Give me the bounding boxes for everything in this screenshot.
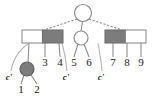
marker-label-c-left: c'	[6, 73, 13, 82]
node-right-block-cell-light[interactable]	[126, 30, 147, 43]
node-left-block-cell-dark[interactable]	[43, 30, 64, 43]
leaf-label-9: 9	[138, 57, 144, 68]
edge-root-to-middle-circle	[81, 22, 83, 32]
node-left-block-cell-light[interactable]	[22, 30, 43, 43]
leaf-label-3: 3	[42, 57, 48, 68]
node-right-block[interactable]	[105, 30, 146, 43]
tree-graphics	[0, 0, 159, 105]
node-left-block[interactable]	[22, 30, 63, 43]
leaf-label-2: 2	[34, 84, 40, 95]
marker-label-c-right: c'	[98, 73, 105, 82]
node-right-block-cell-dark[interactable]	[105, 30, 126, 43]
node-dark-leaf-circle[interactable]	[20, 62, 34, 76]
leaf-label-7: 7	[110, 57, 116, 68]
edge-left-block-to-leaf-4	[59, 43, 60, 57]
node-root-circle[interactable]	[75, 5, 92, 22]
leaf-label-6: 6	[86, 57, 92, 68]
leaf-label-5: 5	[71, 57, 77, 68]
marker-label-c-middle: c'	[63, 73, 70, 82]
right-block-edges	[113, 43, 141, 57]
tree-diagram: 1 2 3 4 5 6 7 8 9 c' c' c'	[0, 0, 159, 105]
node-middle-circle[interactable]	[74, 31, 88, 45]
leaf-label-4: 4	[57, 57, 63, 68]
leaf-label-8: 8	[124, 57, 130, 68]
marker-curve-right	[98, 43, 102, 71]
edge-root-to-right-block	[89, 19, 122, 30]
edge-root-to-left-block	[44, 19, 77, 30]
edge-left-block-to-dark-circle	[28, 43, 29, 62]
leaf-label-1: 1	[18, 84, 24, 95]
